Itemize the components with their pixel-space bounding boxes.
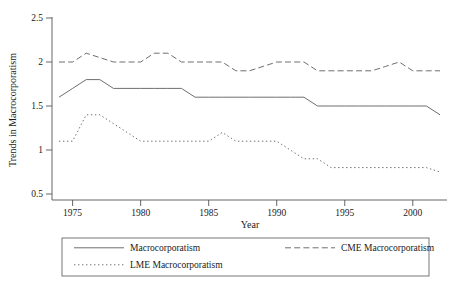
- y-axis-ticks: 0.511.522.5: [31, 13, 52, 199]
- legend-label: Macrocorporatism: [130, 243, 201, 253]
- y-tick-label: 0.5: [31, 189, 43, 199]
- legend-label: LME Macrocorporatism: [130, 260, 223, 270]
- y-tick-label: 2.5: [31, 13, 43, 23]
- y-tick-label: 2: [38, 57, 43, 67]
- series-line-solid: [59, 80, 440, 115]
- y-tick-label: 1.5: [31, 101, 43, 111]
- x-tick-label: 2000: [403, 208, 422, 218]
- series-line-dashed: [59, 53, 440, 71]
- x-axis-title: Year: [241, 219, 260, 230]
- x-tick-label: 1995: [335, 208, 354, 218]
- y-axis-title: Trends in Macrocorporatism: [7, 53, 18, 167]
- x-tick-label: 1990: [267, 208, 286, 218]
- x-tick-label: 1985: [199, 208, 218, 218]
- x-tick-label: 1980: [131, 208, 150, 218]
- data-series-group: [59, 53, 440, 172]
- legend-label: CME Macrocorporatism: [341, 243, 435, 253]
- x-tick-label: 1975: [63, 208, 82, 218]
- series-line-dotted: [59, 115, 440, 172]
- trends-in-macrocorporatism-line-chart: 0.511.522.5 197519801985199019952000 Tre…: [0, 0, 453, 283]
- chart-figure: 0.511.522.5 197519801985199019952000 Tre…: [0, 0, 453, 283]
- legend-entries: MacrocorporatismCME MacrocorporatismLME …: [74, 243, 435, 270]
- x-axis-ticks: 197519801985199019952000: [63, 200, 422, 218]
- y-tick-label: 1: [38, 145, 43, 155]
